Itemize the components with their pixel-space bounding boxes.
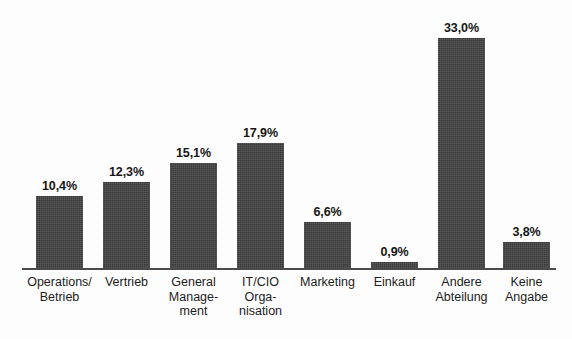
x-axis-line <box>22 268 556 270</box>
bar-group-operations-betrieb: 10,4% <box>36 0 83 269</box>
bar-marketing <box>304 222 351 268</box>
bar-andere-abteilung <box>438 38 485 268</box>
bar-operations-betrieb <box>36 196 83 268</box>
bar-chart-figure: 10,4% 12,3% 15,1% 17,9% 6,6% 0,9% 33,0% <box>0 0 572 339</box>
bar-value-label: 15,1% <box>161 146 226 160</box>
bar-value-label: 10,4% <box>27 179 92 193</box>
bar-value-label: 0,9% <box>362 245 427 259</box>
bar-value-label: 6,6% <box>295 205 360 219</box>
bar-group-general-management: 15,1% <box>170 0 217 269</box>
bar-it-cio-organisation <box>237 143 284 268</box>
bar-group-it-cio-organisation: 17,9% <box>237 0 284 269</box>
bar-group-vertrieb: 12,3% <box>103 0 150 269</box>
bar-vertrieb <box>103 182 150 268</box>
bar-group-andere-abteilung: 33,0% <box>438 0 485 269</box>
category-label-keine-angabe: Keine Angabe <box>485 275 568 304</box>
bar-group-keine-angabe: 3,8% <box>503 0 550 269</box>
bar-group-einkauf: 0,9% <box>371 0 418 269</box>
bar-general-management <box>170 163 217 268</box>
category-axis: Operations/ Betrieb Vertrieb General Man… <box>0 275 572 339</box>
bar-value-label: 33,0% <box>429 21 494 35</box>
bar-value-label: 3,8% <box>494 225 559 239</box>
plot-area: 10,4% 12,3% 15,1% 17,9% 6,6% 0,9% 33,0% <box>0 0 572 269</box>
bar-value-label: 12,3% <box>94 165 159 179</box>
bar-group-marketing: 6,6% <box>304 0 351 269</box>
bar-keine-angabe <box>503 242 550 268</box>
bar-value-label: 17,9% <box>228 126 293 140</box>
